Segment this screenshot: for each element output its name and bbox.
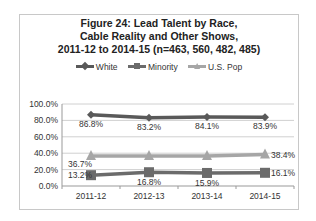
y-tick-label: 60.0% [34, 132, 59, 142]
x-tick-label: 2012-13 [133, 191, 164, 201]
diamond-marker-icon [203, 113, 211, 121]
square-marker-icon [260, 168, 270, 178]
series-line-u-s-pop [91, 155, 265, 156]
y-tick-label: 20.0% [34, 165, 59, 175]
y-tick-label: 0.0% [39, 181, 59, 191]
x-tick-label: 2011-12 [76, 191, 107, 201]
data-label: 83.9% [253, 121, 278, 131]
x-tick-label: 2013-14 [191, 191, 222, 201]
series-line-white [91, 115, 265, 118]
data-label: 13.2% [68, 170, 93, 180]
y-tick-label: 80.0% [34, 115, 59, 125]
data-label: 16.8% [137, 177, 162, 187]
plot-area: 100.0%80.0%60.0%40.0%20.0%0.0%2011-12201… [0, 0, 316, 221]
data-label: 86.8% [79, 119, 104, 129]
series-line-minority [91, 172, 265, 175]
data-label: 15.9% [195, 178, 220, 188]
y-tick-label: 40.0% [34, 148, 59, 158]
data-label: 16.1% [271, 168, 296, 178]
data-label: 84.1% [195, 121, 220, 131]
data-label: 36.7% [68, 159, 93, 169]
data-label: 38.4% [271, 150, 296, 160]
x-tick-label: 2014-15 [249, 191, 280, 201]
data-label: 83.2% [137, 122, 162, 132]
diamond-marker-icon [87, 111, 95, 119]
square-marker-icon [144, 167, 154, 177]
y-tick-label: 100.0% [29, 99, 58, 109]
square-marker-icon [202, 168, 212, 178]
